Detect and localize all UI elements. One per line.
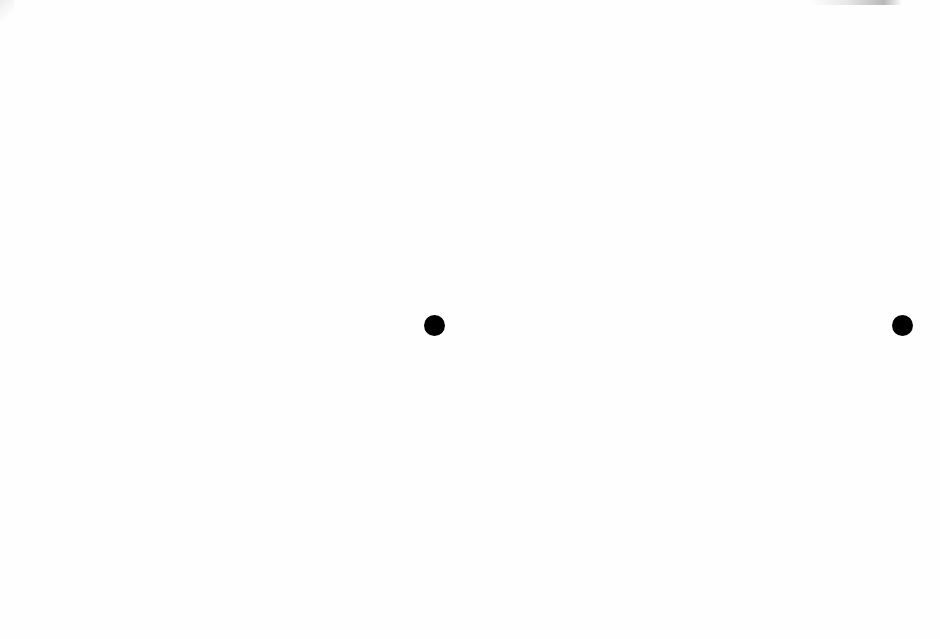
left-dot — [424, 315, 445, 336]
right-dot — [892, 315, 913, 336]
top-right-shadow — [812, 0, 902, 5]
top-left-edge-shade — [0, 0, 14, 24]
blank-surface — [0, 0, 940, 639]
